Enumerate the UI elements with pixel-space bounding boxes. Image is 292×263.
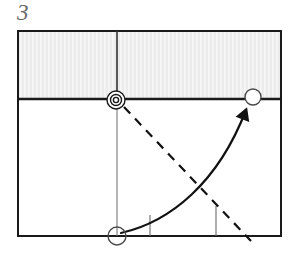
bullseye-marker	[107, 91, 125, 109]
diagram-canvas	[0, 0, 292, 263]
bullseye-outer-ring	[107, 91, 125, 109]
figure-root: 3	[0, 0, 292, 263]
dashed-reference-line	[124, 107, 251, 241]
shaded-band	[18, 31, 281, 99]
circle-marker-right	[245, 89, 261, 105]
